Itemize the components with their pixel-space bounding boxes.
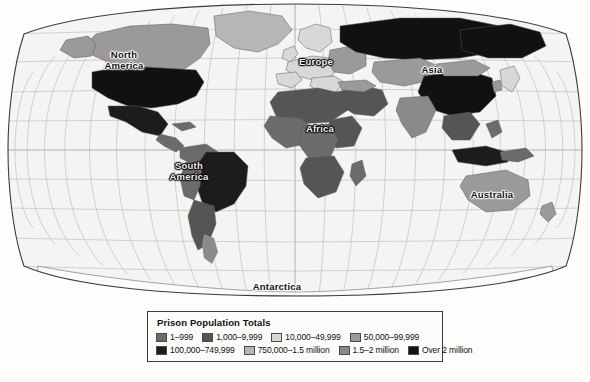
legend-item-over-2-million[interactable]: Over 2 million xyxy=(408,345,473,355)
legend-label-50000-99999: 50,000–99,999 xyxy=(364,332,419,342)
legend-row-1: 1–999 1,000–9,999 10,000–49,999 50,000–9… xyxy=(156,332,434,342)
legend-label-1-5-2-million: 1.5–2 million xyxy=(353,345,399,355)
legend-label-over-2-million: Over 2 million xyxy=(422,345,473,355)
legend-item-1-999[interactable]: 1–999 xyxy=(156,332,193,342)
legend-swatch-1-5-2-million xyxy=(339,346,350,355)
legend-swatch-1-999 xyxy=(156,333,167,342)
legend-item-50000-99999[interactable]: 50,000–99,999 xyxy=(350,332,419,342)
legend-label-1-999: 1–999 xyxy=(170,332,193,342)
legend-label-100000-749999: 100,000–749,999 xyxy=(170,345,235,355)
legend-swatch-750000-1-5-million xyxy=(244,346,255,355)
legend-item-100000-749999[interactable]: 100,000–749,999 xyxy=(156,345,235,355)
legend-label-10000-49999: 10,000–49,999 xyxy=(285,332,340,342)
world-map[interactable]: North America Europe Asia Africa South A… xyxy=(0,0,590,300)
legend-label-750000-1-5-million: 750,000–1.5 million xyxy=(258,345,330,355)
legend-item-1-5-2-million[interactable]: 1.5–2 million xyxy=(339,345,399,355)
legend-label-1000-9999: 1,000–9,999 xyxy=(216,332,262,342)
legend-swatch-50000-99999 xyxy=(350,333,361,342)
legend-item-750000-1-5-million[interactable]: 750,000–1.5 million xyxy=(244,345,330,355)
legend-swatch-10000-49999 xyxy=(271,333,282,342)
legend-swatch-100000-749999 xyxy=(156,346,167,355)
map-figure: North America Europe Asia Africa South A… xyxy=(0,0,590,382)
world-map-canvas[interactable] xyxy=(0,0,590,300)
region-korea xyxy=(492,80,502,92)
legend-title: Prison Population Totals xyxy=(157,317,434,328)
legend-swatch-over-2-million xyxy=(408,346,419,355)
legend-row-2: 100,000–749,999 750,000–1.5 million 1.5–… xyxy=(156,345,434,355)
legend-item-1000-9999[interactable]: 1,000–9,999 xyxy=(202,332,262,342)
legend-item-10000-49999[interactable]: 10,000–49,999 xyxy=(271,332,340,342)
map-legend: Prison Population Totals 1–999 1,000–9,9… xyxy=(147,311,443,362)
legend-swatch-1000-9999 xyxy=(202,333,213,342)
